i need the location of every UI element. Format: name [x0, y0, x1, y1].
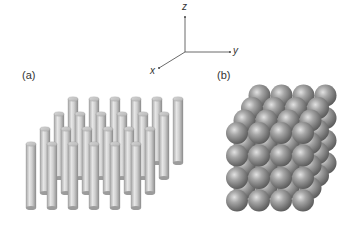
- coordinate-axes: [158, 16, 231, 69]
- cylinder: [145, 127, 155, 195]
- sphere: [248, 190, 270, 212]
- sphere: [270, 145, 292, 167]
- sphere: [292, 190, 314, 212]
- diagram-canvas: [0, 0, 355, 230]
- y-axis-tip: [229, 51, 231, 53]
- sphere: [292, 122, 314, 144]
- figure: z y x (a) (b): [0, 0, 355, 230]
- sphere: [292, 145, 314, 167]
- sphere: [292, 167, 314, 189]
- cylinder: [89, 142, 99, 210]
- sphere: [226, 145, 248, 167]
- sphere: [248, 167, 270, 189]
- cylinder: [68, 142, 78, 210]
- cylinder: [131, 142, 141, 210]
- cylinder: [173, 97, 183, 165]
- sphere-stack: [226, 85, 337, 212]
- sphere: [248, 122, 270, 144]
- sphere: [226, 190, 248, 212]
- sphere: [270, 167, 292, 189]
- x-axis-tip: [158, 67, 160, 69]
- sphere: [248, 145, 270, 167]
- sphere: [270, 190, 292, 212]
- sphere: [226, 122, 248, 144]
- panel-a-label: (a): [22, 69, 35, 81]
- cylinder-array: [26, 97, 183, 210]
- x-axis-label: x: [150, 65, 155, 76]
- cylinder: [47, 142, 57, 210]
- sphere: [226, 167, 248, 189]
- x-axis-line: [159, 52, 185, 68]
- z-axis-label: z: [182, 1, 187, 12]
- panel-b-label: (b): [217, 69, 230, 81]
- sphere: [270, 122, 292, 144]
- z-axis-tip: [184, 16, 186, 18]
- y-axis-label: y: [233, 45, 238, 56]
- cylinder: [110, 142, 120, 210]
- cylinder: [159, 112, 169, 180]
- cylinder: [26, 142, 36, 210]
